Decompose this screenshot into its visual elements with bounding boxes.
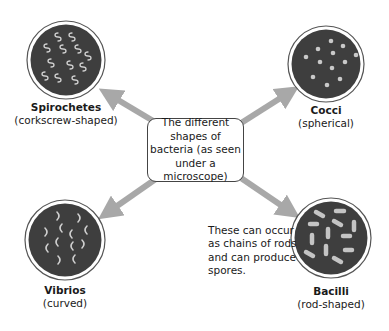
center-title-box: The different shapes of bacteria (as see… — [147, 118, 244, 182]
bacilli-note: These can occur as chains of rods and ca… — [208, 224, 298, 277]
cocci-icon — [288, 26, 364, 102]
vibrios-icon — [25, 200, 105, 280]
center-title: The different shapes of bacteria (as see… — [150, 116, 241, 184]
bacteria-description: (spherical) — [286, 117, 366, 130]
spirochetes-icon — [27, 21, 105, 99]
arrow-to-bacilli — [238, 176, 291, 212]
spirochetes-label: Spirochetes (corkscrew-shaped) — [6, 101, 126, 127]
bacteria-description: (corkscrew-shaped) — [6, 114, 126, 127]
bacteria-name: Cocci — [286, 104, 366, 117]
bacteria-name: Spirochetes — [6, 101, 126, 114]
bacteria-name: Vibrios — [25, 284, 105, 297]
bacilli-icon — [291, 198, 371, 278]
bacilli-label: Bacilli (rod-shaped) — [291, 285, 371, 311]
arrow-to-cocci — [238, 92, 290, 125]
bacteria-description: (curved) — [25, 297, 105, 310]
cocci-label: Cocci (spherical) — [286, 104, 366, 130]
bacteria-description: (rod-shaped) — [291, 298, 371, 311]
vibrios-label: Vibrios (curved) — [25, 284, 105, 310]
bacteria-name: Bacilli — [291, 285, 371, 298]
